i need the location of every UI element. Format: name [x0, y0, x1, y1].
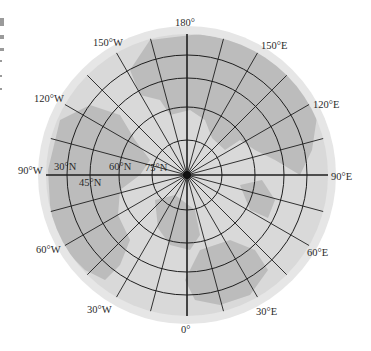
cropped-text-fragment: [0, 60, 2, 62]
longitude-label: 150°W: [93, 38, 123, 49]
longitude-label: 120°E: [313, 100, 339, 111]
longitude-label: 150°E: [261, 41, 287, 52]
cropped-text-fragment: [0, 18, 4, 26]
cropped-text-fragment: [0, 35, 4, 39]
cropped-text-fragment: [0, 88, 2, 90]
longitude-label: 30°W: [87, 305, 112, 316]
latitude-label: 45°N: [79, 178, 101, 189]
longitude-label: 60°W: [36, 245, 61, 256]
longitude-label: 120°W: [34, 94, 64, 105]
pole-marker: [183, 171, 191, 179]
longitude-label: 60°E: [307, 248, 328, 259]
longitude-label: 0°: [181, 325, 190, 336]
cropped-text-fragment: [0, 75, 2, 77]
longitude-label: 90°W: [18, 166, 43, 177]
cropped-text-fragment: [0, 48, 4, 51]
longitude-label: 90°E: [331, 172, 352, 183]
latitude-label: 60°N: [109, 162, 131, 173]
polar-map: [0, 0, 371, 351]
longitude-label: 30°E: [256, 307, 277, 318]
latitude-label: 75°N: [145, 163, 167, 174]
longitude-label: 180°: [175, 18, 195, 29]
latitude-label: 30°N: [54, 162, 76, 173]
